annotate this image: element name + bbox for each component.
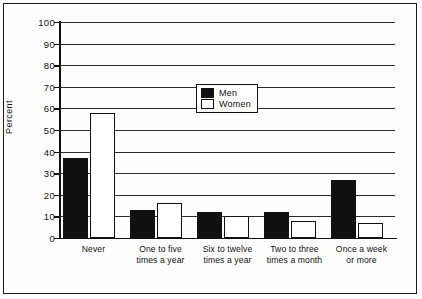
x-tick-label: Once a week or more xyxy=(319,244,404,265)
legend-item-women: Women xyxy=(201,99,251,109)
y-tick-label: 30 xyxy=(29,168,55,179)
legend-swatch-men xyxy=(201,88,214,98)
bar-women xyxy=(90,113,115,238)
bar-women xyxy=(157,203,182,238)
y-tick-mark xyxy=(54,22,59,23)
bar-group xyxy=(261,22,328,238)
y-tick-label: 0 xyxy=(29,233,55,244)
y-tick-mark xyxy=(54,65,59,66)
y-tick-label: 90 xyxy=(29,38,55,49)
legend-swatch-women xyxy=(201,99,214,109)
bar-men xyxy=(63,158,88,238)
y-tick-label: 20 xyxy=(29,189,55,200)
y-axis-ticks: 0102030405060708090100 xyxy=(27,22,55,238)
y-tick-mark xyxy=(54,130,59,131)
y-tick-mark xyxy=(54,87,59,88)
y-tick-label: 50 xyxy=(29,125,55,136)
bar-women xyxy=(224,216,249,238)
y-tick-label: 80 xyxy=(29,60,55,71)
y-tick-label: 40 xyxy=(29,146,55,157)
bar-group xyxy=(127,22,194,238)
bar-men xyxy=(331,180,356,238)
y-tick-mark xyxy=(54,238,59,239)
legend-label-women: Women xyxy=(219,99,251,109)
bar-men xyxy=(264,212,289,238)
bar-group xyxy=(60,22,127,238)
y-tick-label: 100 xyxy=(29,17,55,28)
bar-men xyxy=(197,212,222,238)
bar-women xyxy=(291,221,316,238)
legend-item-men: Men xyxy=(201,88,251,98)
y-axis-title: Percent xyxy=(4,100,14,134)
bar-group xyxy=(328,22,395,238)
y-tick-mark xyxy=(54,108,59,109)
bar-women xyxy=(358,223,383,238)
legend-label-men: Men xyxy=(219,88,237,98)
y-tick-label: 70 xyxy=(29,81,55,92)
bar-group xyxy=(194,22,261,238)
y-tick-mark xyxy=(54,216,59,217)
y-tick-label: 60 xyxy=(29,103,55,114)
y-tick-mark xyxy=(54,152,59,153)
y-tick-label: 10 xyxy=(29,211,55,222)
chart-screenshot: Percent 0102030405060708090100 NeverOne … xyxy=(0,0,422,299)
bar-men xyxy=(130,210,155,238)
y-tick-mark xyxy=(54,173,59,174)
y-tick-mark xyxy=(54,44,59,45)
plot-area xyxy=(60,22,395,238)
chart-legend: Men Women xyxy=(196,84,258,113)
y-tick-mark xyxy=(54,195,59,196)
